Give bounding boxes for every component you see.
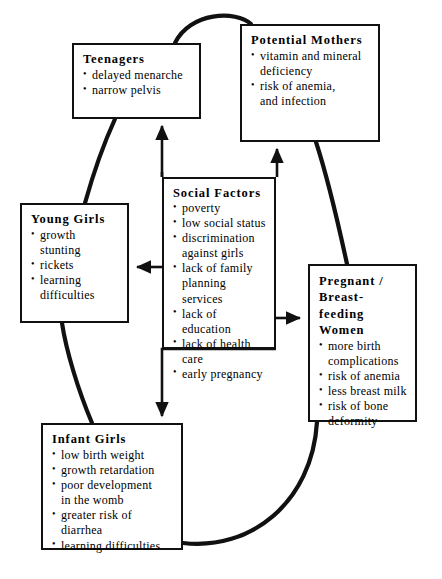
node-pregnant-breastfeeding-women-items: more birth complications risk of anemia … <box>319 339 407 429</box>
list-item: early pregnancy <box>173 367 266 382</box>
node-social-factors-title: Social Factors <box>173 186 266 201</box>
node-social-factors[interactable]: Social Factors poverty low social status… <box>162 177 276 349</box>
list-item: growth stunting <box>31 228 119 258</box>
edge-young-girls-to-teenagers <box>85 119 115 203</box>
list-item: lack of education <box>173 307 266 337</box>
list-item: risk of bone deformity <box>319 399 407 429</box>
edge-infant-girls-to-young-girls <box>62 323 92 423</box>
node-infant-girls[interactable]: Infant Girls low birth weight growth ret… <box>41 423 183 550</box>
list-item: lack of family planning services <box>173 261 266 306</box>
list-item: greater risk of diarrhea <box>52 508 173 538</box>
node-pregnant-breastfeeding-women[interactable]: Pregnant / Breast-feeding Women more bir… <box>308 264 417 422</box>
lifecycle-diagram: Teenagers delayed menarche narrow pelvis… <box>0 0 442 579</box>
node-social-factors-items: poverty low social status discrimination… <box>173 201 266 382</box>
list-item: vitamin and mineral deficiency <box>251 49 370 79</box>
list-item: less breast milk <box>319 384 407 399</box>
node-teenagers[interactable]: Teenagers delayed menarche narrow pelvis <box>72 43 201 119</box>
list-item: rickets <box>31 258 119 273</box>
list-item: more birth complications <box>319 339 407 369</box>
node-young-girls[interactable]: Young Girls growth stunting rickets lear… <box>20 203 129 323</box>
node-infant-girls-title: Infant Girls <box>52 432 173 447</box>
list-item: discrimination against girls <box>173 231 266 261</box>
list-item: narrow pelvis <box>83 83 191 98</box>
list-item: learning difficulties <box>52 539 173 554</box>
list-item: delayed menarche <box>83 68 191 83</box>
list-item: low social status <box>173 216 266 231</box>
node-pregnant-breastfeeding-women-title: Pregnant / Breast-feeding Women <box>319 273 407 338</box>
node-potential-mothers[interactable]: Potential Mothers vitamin and mineral de… <box>240 24 380 142</box>
list-item: risk of anemia <box>319 369 407 384</box>
list-item: poverty <box>173 201 266 216</box>
list-item: lack of health care <box>173 337 266 367</box>
list-item: learning difficulties <box>31 273 119 303</box>
node-potential-mothers-items: vitamin and mineral deficiency risk of a… <box>251 49 370 109</box>
list-item: poor development in the womb <box>52 478 173 508</box>
edge-pregnant-women-to-infant-girls <box>183 422 317 544</box>
list-item: growth retardation <box>52 463 173 478</box>
node-young-girls-items: growth stunting rickets learning difficu… <box>31 228 119 303</box>
node-young-girls-title: Young Girls <box>31 212 119 227</box>
list-item: low birth weight <box>52 448 173 463</box>
node-infant-girls-items: low birth weight growth retardation poor… <box>52 448 173 553</box>
node-teenagers-items: delayed menarche narrow pelvis <box>83 68 191 98</box>
edge-potential-mothers-to-pregnant-women <box>316 142 347 264</box>
node-potential-mothers-title: Potential Mothers <box>251 33 370 48</box>
list-item: risk of anemia, and infection <box>251 79 370 109</box>
node-teenagers-title: Teenagers <box>83 52 191 67</box>
